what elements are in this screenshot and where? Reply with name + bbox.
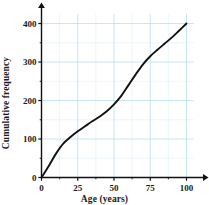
x-axis-title: Age (years) xyxy=(0,194,209,204)
y-axis-title: Cumulative frequency xyxy=(1,33,11,173)
x-tick-label: 100 xyxy=(180,183,194,193)
y-tick-label: 300 xyxy=(23,57,37,67)
y-tick-label: 200 xyxy=(23,96,37,106)
y-tick-label: 100 xyxy=(23,134,37,144)
y-tick-label: 0 xyxy=(32,173,37,183)
x-tick-label: 50 xyxy=(110,183,119,193)
cumulative-frequency-chart: 0255075100 0100200300400 Age (years) Cum… xyxy=(0,0,209,205)
x-tick-label: 75 xyxy=(146,183,155,193)
axis-ticks xyxy=(38,24,186,181)
x-tick-label: 0 xyxy=(39,183,44,193)
x-tick-label: 25 xyxy=(73,183,82,193)
y-tick-label: 400 xyxy=(23,19,37,29)
